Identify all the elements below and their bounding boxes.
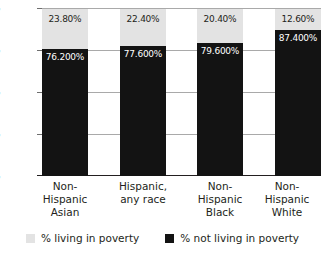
x-axis-category-label: Non- Hispanic White: [249, 180, 325, 219]
category-label-line: Hispanic: [249, 193, 325, 206]
poverty-stacked-bar-chart: 100.0% 75.0% 50.0% 25.0% 0.0% 23.80% 7: [0, 0, 325, 258]
bar-group[interactable]: 12.60% 87.400%: [275, 9, 321, 176]
category-label-line: Hispanic,: [105, 180, 181, 193]
bar-value-label: 12.60%: [275, 14, 321, 24]
category-label-line: Non-: [182, 180, 258, 193]
legend-item-living-in-poverty[interactable]: % living in poverty: [26, 232, 139, 244]
x-axis-category-label: Non- Hispanic Asian: [27, 180, 103, 219]
x-axis-category-label: Hispanic, any race: [105, 180, 181, 206]
bar-value-label: 87.400%: [275, 33, 321, 43]
category-label-line: Non-: [27, 180, 103, 193]
x-axis-category-label: Non- Hispanic Black: [182, 180, 258, 219]
bar-value-label: 20.40%: [197, 14, 243, 24]
bar-segment-not-living-in-poverty[interactable]: 79.600%: [197, 43, 243, 176]
bar-group[interactable]: 22.40% 77.600%: [120, 9, 166, 176]
category-label-line: Non-: [249, 180, 325, 193]
legend-label: % not living in poverty: [180, 232, 299, 244]
chart-legend: % living in poverty % not living in pove…: [0, 232, 325, 244]
legend-swatch-icon: [165, 234, 174, 243]
bar-group[interactable]: 20.40% 79.600%: [197, 9, 243, 176]
bar-value-label: 22.40%: [120, 14, 166, 24]
legend-label: % living in poverty: [41, 232, 139, 244]
legend-item-not-living-in-poverty[interactable]: % not living in poverty: [165, 232, 299, 244]
bar-group[interactable]: 23.80% 76.200%: [42, 9, 88, 176]
category-label-line: Asian: [27, 206, 103, 219]
bar-segment-living-in-poverty[interactable]: 23.80%: [42, 9, 88, 49]
bar-segment-living-in-poverty[interactable]: 12.60%: [275, 9, 321, 30]
category-label-line: Hispanic: [182, 193, 258, 206]
bar-value-label: 77.600%: [120, 49, 166, 59]
legend-swatch-icon: [26, 234, 35, 243]
plot-area: 23.80% 76.200% 22.40% 77.600% 20.40% 79.…: [42, 8, 321, 176]
bar-segment-not-living-in-poverty[interactable]: 77.600%: [120, 46, 166, 176]
bar-value-label: 79.600%: [197, 46, 243, 56]
bar-segment-living-in-poverty[interactable]: 20.40%: [197, 9, 243, 43]
category-label-line: any race: [105, 193, 181, 206]
category-label-line: Black: [182, 206, 258, 219]
bar-segment-not-living-in-poverty[interactable]: 87.400%: [275, 30, 321, 176]
category-label-line: White: [249, 206, 325, 219]
bar-segment-living-in-poverty[interactable]: 22.40%: [120, 9, 166, 46]
bar-segment-not-living-in-poverty[interactable]: 76.200%: [42, 49, 88, 176]
bar-value-label: 23.80%: [42, 14, 88, 24]
bar-value-label: 76.200%: [42, 52, 88, 62]
category-label-line: Hispanic: [27, 193, 103, 206]
